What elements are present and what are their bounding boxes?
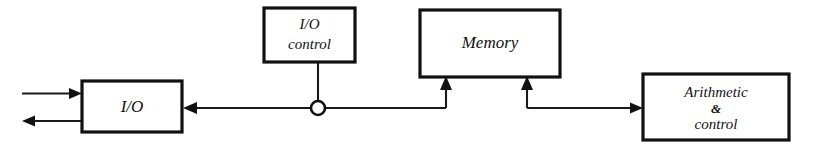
node-io-label: I/O: [120, 97, 144, 116]
node-arithmetic-control-label-line1: Arithmetic: [683, 84, 748, 100]
diagram-svg: I/O I/O control Memory Arithmetic & cont…: [0, 0, 818, 151]
node-io-control-label-line1: I/O: [299, 16, 320, 32]
connection-bus-to-memory-left: [440, 76, 452, 108]
node-memory[interactable]: Memory: [420, 10, 560, 77]
arrowhead-right-icon: [69, 88, 82, 99]
connection-io-to-external-output: [22, 116, 82, 127]
block-diagram-canvas: I/O I/O control Memory Arithmetic & cont…: [0, 0, 818, 151]
node-io[interactable]: I/O: [82, 81, 182, 132]
arrowhead-left-icon: [22, 116, 35, 127]
bus-junction-node: [311, 101, 325, 115]
node-io-control-label-line2: control: [288, 36, 331, 52]
node-arithmetic-control-label-line3: control: [695, 116, 738, 132]
node-memory-label: Memory: [461, 33, 519, 52]
arrowhead-left-icon: [183, 102, 197, 114]
node-arithmetic-control-label-ampersand: &: [711, 101, 721, 116]
connection-external-input-to-io: [22, 88, 82, 99]
connection-memory-to-arithmetic: [521, 76, 643, 114]
node-io-control[interactable]: I/O control: [264, 8, 355, 62]
arrowhead-right-icon: [630, 103, 643, 114]
node-arithmetic-control[interactable]: Arithmetic & control: [643, 74, 789, 140]
